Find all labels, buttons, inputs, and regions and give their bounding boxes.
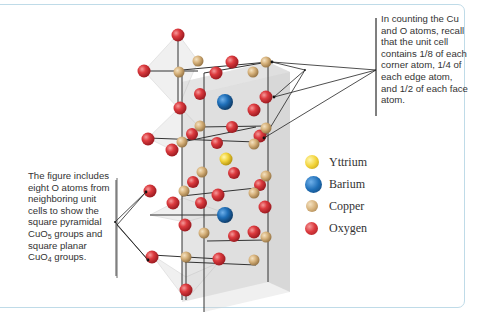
- copper-atom-icon: [306, 200, 318, 212]
- callout-note-counting-atoms: In counting the Cu and O atoms, recall t…: [381, 13, 471, 106]
- atom-legend: Yttrium Barium Copper Oxygen: [305, 151, 367, 239]
- legend-item-barium: Barium: [305, 173, 367, 195]
- callout-note-neighboring-atoms: The figure includes eight O atoms from n…: [28, 170, 110, 263]
- note-text-part: groups.: [52, 251, 87, 262]
- legend-item-copper: Copper: [305, 195, 367, 217]
- oxygen-atom-icon: [305, 222, 318, 235]
- barium-atom-icon: [305, 176, 322, 193]
- legend-item-yttrium: Yttrium: [305, 151, 367, 173]
- yttrium-atom-icon: [305, 155, 319, 169]
- legend-item-oxygen: Oxygen: [305, 217, 367, 239]
- legend-label: Barium: [329, 177, 365, 192]
- legend-label: Oxygen: [329, 221, 367, 236]
- legend-label: Copper: [329, 199, 364, 214]
- legend-label: Yttrium: [329, 155, 367, 170]
